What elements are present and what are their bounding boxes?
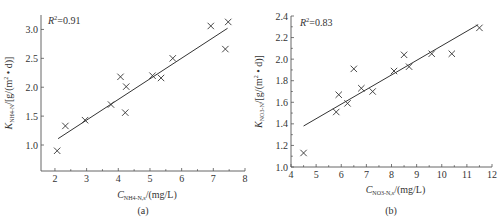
x-tick-label: 3 [84,173,89,184]
y-tick-label: 1.6 [276,97,289,108]
x-axis-label: CNO3-N,s/(mg/L) [366,184,426,196]
data-point-x-marker [158,75,164,81]
data-point-x-marker [208,23,214,29]
panel-caption: (a) [137,205,148,217]
x-tick-label: 6 [179,173,184,184]
data-point-x-marker [225,19,231,25]
chart-figure: 23456781.01.52.02.53.0R2=0.91CNH4-N,s/(m… [0,0,500,220]
data-point-x-marker [123,83,129,89]
r-squared-annotation: R2=0.91 [47,14,81,26]
y-tick-label: 1.0 [26,140,39,151]
data-point-x-marker [401,52,407,58]
y-tick-label: 1.2 [276,140,289,151]
data-point-x-marker [108,101,114,107]
regression-line [304,25,479,126]
y-tick-label: 2.2 [276,32,289,43]
axes-frame [41,15,245,171]
x-tick-label: 7 [364,169,369,180]
panel-caption: (b) [385,205,397,217]
x-axis-label: CNH4-N,s/(mg/L) [117,189,177,201]
data-point-x-marker [222,46,228,52]
y-tick-label: 2.0 [276,54,289,65]
x-tick-label: 4 [116,173,121,184]
y-tick-label: 2.0 [26,82,39,93]
data-point-x-marker [476,25,482,31]
data-point-x-marker [62,123,68,129]
data-point-x-marker [358,85,364,91]
y-axis-label: KNH4-N/[g/(m2 • d)] [3,57,15,131]
r-squared-annotation: R2=0.83 [299,16,333,28]
x-tick-label: 2 [52,173,57,184]
x-tick-label: 5 [314,169,319,180]
chart-panel-a: 23456781.01.52.02.53.0R2=0.91CNH4-N,s/(m… [3,14,248,217]
data-point-x-marker [333,109,339,115]
x-tick-label: 9 [414,169,419,180]
x-tick-label: 4 [289,169,294,180]
chart-panel-b: 4567891011121.01.21.41.61.82.02.22.4R2=0… [253,11,497,218]
data-point-x-marker [369,88,375,94]
y-tick-label: 1.8 [276,75,289,86]
x-tick-label: 6 [339,169,344,180]
data-point-x-marker [336,92,342,98]
x-tick-label: 8 [243,173,248,184]
x-tick-label: 8 [389,169,394,180]
data-point-x-marker [117,74,123,80]
data-point-x-marker [300,150,306,156]
x-tick-label: 5 [147,173,152,184]
y-tick-label: 3.0 [26,24,39,35]
data-point-x-marker [122,109,128,115]
y-axis-label: KNO3-N/[g/(m2 • d)] [253,55,265,129]
data-point-x-marker [170,55,176,61]
y-tick-label: 2.4 [276,11,289,22]
x-tick-label: 11 [462,169,472,180]
y-tick-label: 1.5 [26,111,39,122]
y-tick-label: 1.0 [276,162,289,173]
data-point-x-marker [449,51,455,57]
x-tick-label: 10 [437,169,447,180]
x-tick-label: 12 [487,169,497,180]
x-tick-label: 7 [211,173,216,184]
y-tick-label: 1.4 [276,118,289,129]
data-point-x-marker [351,66,357,72]
data-point-x-marker [344,100,350,106]
y-tick-label: 2.5 [26,53,39,64]
axes-frame [291,16,492,167]
data-point-x-marker [54,148,60,154]
